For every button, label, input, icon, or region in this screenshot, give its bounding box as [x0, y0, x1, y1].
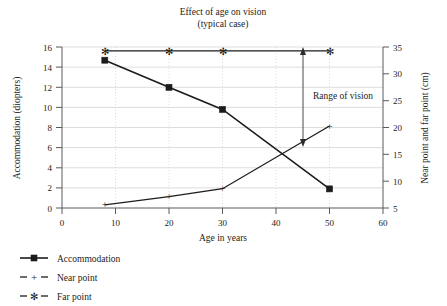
y-left-tick-4: 4	[48, 163, 53, 173]
x-tick-60: 60	[379, 218, 389, 228]
accommodation-marker-age-8	[102, 57, 108, 63]
x-tick-30: 30	[218, 218, 228, 228]
y-right-tick-15: 15	[393, 150, 403, 160]
accommodation-marker-age-30	[220, 106, 226, 112]
y-left-tick-0: 0	[48, 204, 53, 214]
far-point-marker-age-30: ✻	[219, 46, 227, 57]
y-right-tick-5: 5	[393, 204, 398, 214]
near-point-marker-age-8: +	[102, 198, 108, 210]
y-axis-title-left: Accommodation (diopters)	[12, 77, 23, 180]
near-point-marker-age-20: +	[166, 190, 172, 202]
y-left-tick-2: 2	[48, 183, 53, 193]
far-point-marker-age-50: ✻	[326, 46, 334, 57]
x-tick-0: 0	[60, 218, 65, 228]
y-right-tick-20: 20	[393, 123, 403, 133]
accommodation-marker-age-50	[327, 186, 333, 192]
legend-square-icon	[31, 255, 37, 261]
accommodation-marker-age-20	[166, 84, 172, 90]
legend-label-accommodation: Accommodation	[57, 254, 121, 264]
y-left-tick-14: 14	[43, 63, 53, 73]
far-point-marker-age-8: ✻	[101, 46, 109, 57]
y-left-tick-10: 10	[43, 103, 53, 113]
legend-label-near-point: Near point	[57, 273, 98, 283]
chart-title: Effect of age on vision	[180, 7, 267, 17]
range-of-vision-label: Range of vision	[313, 91, 373, 101]
y-right-tick-10: 10	[393, 177, 403, 187]
y-left-tick-16: 16	[43, 43, 53, 53]
x-tick-40: 40	[272, 218, 282, 228]
x-tick-20: 20	[165, 218, 175, 228]
near-point-marker-age-30: +	[219, 182, 225, 194]
chart-subtitle: (typical case)	[198, 19, 249, 30]
x-tick-10: 10	[111, 218, 121, 228]
y-left-tick-6: 6	[48, 143, 53, 153]
y-right-tick-30: 30	[393, 69, 403, 79]
y-right-tick-25: 25	[393, 96, 403, 106]
y-right-tick-35: 35	[393, 43, 403, 53]
legend-item-near-point[interactable]: + Near point	[20, 271, 98, 283]
y-left-tick-12: 12	[43, 83, 52, 93]
x-tick-50: 50	[325, 218, 335, 228]
y-left-tick-8: 8	[48, 123, 53, 133]
near-point-marker-age-50: +	[326, 120, 332, 132]
x-axis-title: Age in years	[199, 233, 247, 243]
legend-label-far-point: Far point	[57, 292, 92, 302]
far-point-marker-age-20: ✻	[165, 46, 173, 57]
legend-plus-icon: +	[31, 271, 37, 283]
y-axis-title-right: Near point and far point (cm)	[420, 72, 431, 184]
legend-asterisk-icon: ✻	[30, 291, 38, 302]
chart-figure: Effect of age on vision (typical case) A…	[0, 0, 447, 306]
